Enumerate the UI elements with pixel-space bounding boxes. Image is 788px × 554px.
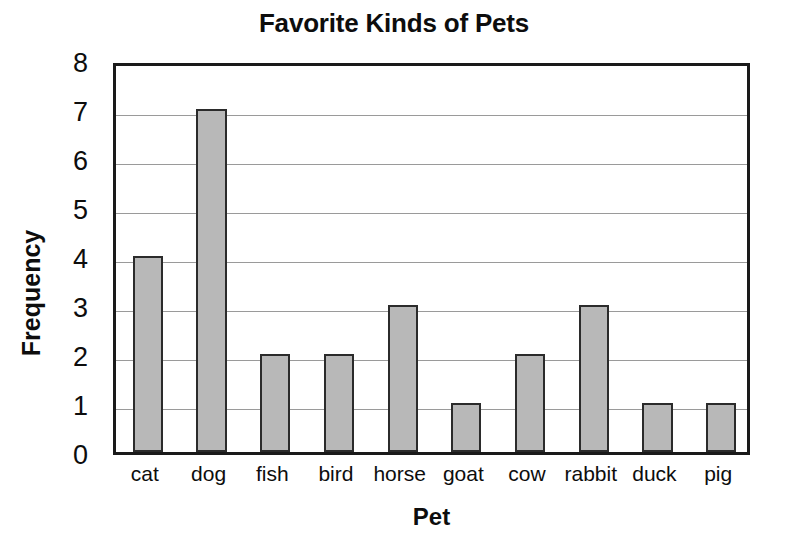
- y-axis-tick-labels: 012345678: [0, 63, 104, 455]
- x-tick-label: fish: [256, 461, 289, 487]
- bar: [388, 305, 418, 452]
- y-tick-label: 5: [28, 197, 88, 224]
- x-axis-tick-labels: catdogfishbirdhorsegoatcowrabbitduckpig: [113, 461, 750, 491]
- bar: [515, 354, 545, 452]
- y-tick-label: 4: [28, 246, 88, 273]
- x-axis-title: Pet: [113, 503, 750, 531]
- bar: [260, 354, 290, 452]
- x-tick-label: horse: [373, 461, 426, 487]
- x-tick-label: bird: [318, 461, 353, 487]
- x-tick-label: rabbit: [564, 461, 617, 487]
- chart-title: Favorite Kinds of Pets: [0, 8, 788, 39]
- bar: [642, 403, 672, 452]
- bar: [324, 354, 354, 452]
- plot-area: [113, 63, 750, 455]
- bar: [451, 403, 481, 452]
- bar: [579, 305, 609, 452]
- bar: [706, 403, 736, 452]
- y-tick-label: 1: [28, 393, 88, 420]
- y-tick-label: 2: [28, 344, 88, 371]
- y-tick-label: 7: [28, 99, 88, 126]
- x-tick-label: pig: [704, 461, 732, 487]
- bar-chart-figure: Favorite Kinds of Pets Frequency 0123456…: [0, 0, 788, 554]
- x-tick-label: dog: [191, 461, 226, 487]
- plot-inner: [116, 66, 747, 452]
- x-tick-label: cat: [131, 461, 159, 487]
- y-tick-label: 3: [28, 295, 88, 322]
- x-tick-label: cow: [508, 461, 545, 487]
- bar: [133, 256, 163, 452]
- y-tick-label: 8: [28, 50, 88, 77]
- y-tick-label: 0: [28, 442, 88, 469]
- x-tick-label: goat: [443, 461, 484, 487]
- y-tick-label: 6: [28, 148, 88, 175]
- x-tick-label: duck: [632, 461, 676, 487]
- bar: [196, 109, 226, 452]
